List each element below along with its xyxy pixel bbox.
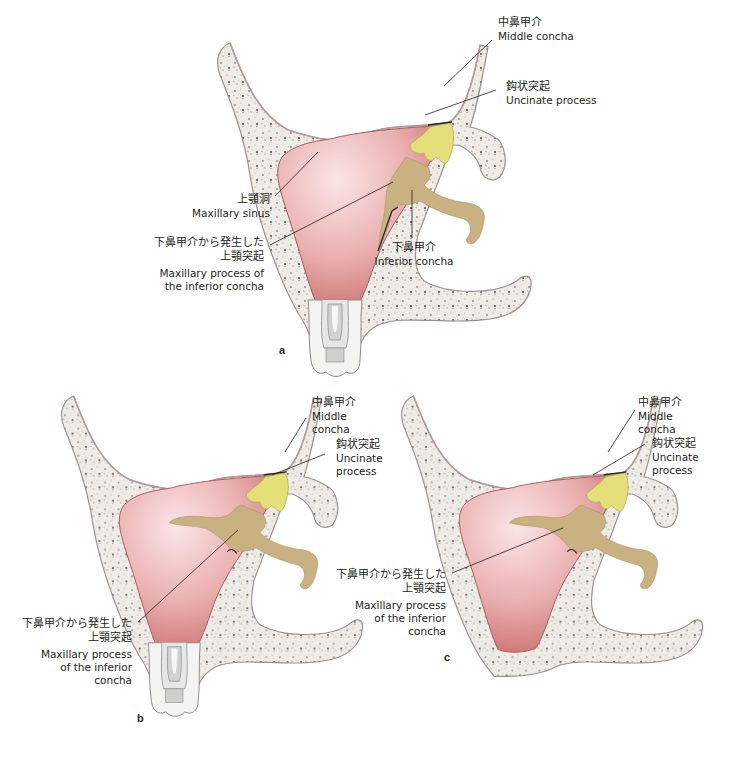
label-middle-concha-a: 中鼻甲介 Middle concha [498, 16, 574, 43]
label-maxillary-process-c: 下鼻甲介から発生した 上顎突起 Maxillary process of the… [318, 568, 446, 638]
label-maxillary-process-b: 下鼻甲介から発生した 上顎突起 Maxillary process of the… [4, 617, 132, 687]
panel-letter-a: a [279, 344, 285, 356]
label-inferior-concha-a: 下鼻甲介 Inferior concha [370, 241, 458, 268]
label-uncinate-a: 鈎状突起 Uncinate process [506, 80, 596, 107]
panel-letter-c: c [444, 651, 450, 663]
label-uncinate-b: 鈎状突起 Uncinate process [336, 438, 383, 478]
label-maxillary-sinus-a: 上顎洞 Maxillary sinus [180, 193, 270, 220]
label-maxillary-process-a: 下鼻甲介から発生した 上顎突起 Maxillary process of the… [140, 236, 264, 293]
label-middle-concha-c: 中鼻甲介 Middle concha [638, 396, 682, 436]
panel-letter-b: b [137, 712, 144, 724]
label-uncinate-c: 鈎状突起 Uncinate process [652, 437, 699, 477]
label-middle-concha-b: 中鼻甲介 Middle concha [312, 396, 356, 436]
